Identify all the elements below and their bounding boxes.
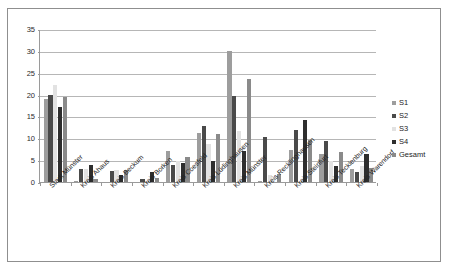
legend-swatch-icon xyxy=(392,101,396,105)
bar xyxy=(48,95,52,182)
legend-item[interactable]: Gesamt xyxy=(392,148,442,161)
legend-item[interactable]: S2 xyxy=(392,109,442,122)
y-tick-label: 25 xyxy=(11,70,35,78)
legend-swatch-icon xyxy=(392,127,396,131)
legend-item[interactable]: S1 xyxy=(392,96,442,109)
legend-label: S2 xyxy=(399,111,408,120)
legend-swatch-icon xyxy=(392,153,396,157)
legend-label: S3 xyxy=(399,124,408,133)
legend-label: Gesamt xyxy=(399,150,425,159)
legend-label: S4 xyxy=(399,137,408,146)
bar xyxy=(44,99,48,182)
y-tick-label: 30 xyxy=(11,48,35,56)
y-tick-label: 5 xyxy=(11,157,35,165)
bar xyxy=(258,181,262,182)
legend-item[interactable]: S3 xyxy=(392,122,442,135)
bar xyxy=(232,96,236,182)
bar xyxy=(350,169,354,182)
y-tick-label: 10 xyxy=(11,135,35,143)
bar-group xyxy=(40,30,71,182)
legend-label: S1 xyxy=(399,98,408,107)
y-axis: 05101520253035 xyxy=(9,30,35,183)
bar xyxy=(53,85,57,182)
y-tick-label: 15 xyxy=(11,113,35,121)
chart-legend: S1S2S3S4Gesamt xyxy=(392,96,442,161)
x-tick-mark xyxy=(377,183,378,186)
x-axis-labels: Stadt MünsterKreis AhausKreis BeckumKrei… xyxy=(39,184,376,264)
y-tick-label: 35 xyxy=(11,26,35,34)
y-tick-label: 0 xyxy=(11,179,35,187)
chart-figure: 05101520253035 Stadt MünsterKreis AhausK… xyxy=(0,0,453,274)
legend-item[interactable]: S4 xyxy=(392,135,442,148)
legend-swatch-icon xyxy=(392,114,396,118)
bar xyxy=(74,181,78,182)
legend-swatch-icon xyxy=(392,140,396,144)
y-tick-label: 20 xyxy=(11,92,35,100)
